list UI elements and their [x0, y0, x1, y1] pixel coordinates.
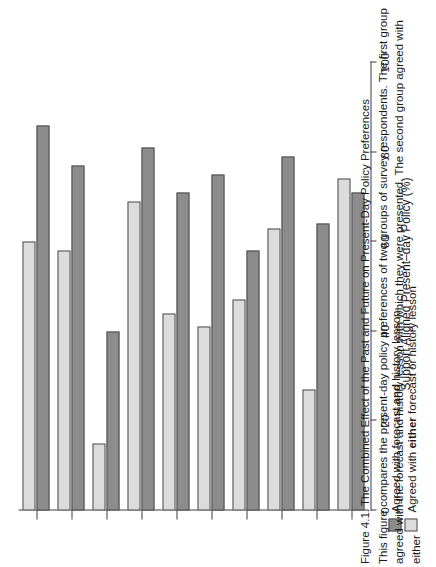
caption-title: Figure 4.1. The Combined Effect of the P… — [357, 4, 374, 564]
bar-and-series — [246, 250, 259, 510]
bar-either-series — [302, 389, 315, 510]
bar-group — [158, 62, 193, 510]
category-tick — [211, 510, 212, 519]
bar-either-series — [232, 299, 245, 510]
bar-and-series — [71, 165, 84, 510]
bar-either-series — [22, 241, 35, 510]
bar-group — [88, 62, 123, 510]
bar-and-series — [36, 125, 49, 510]
category-tick — [316, 510, 317, 519]
bar-group — [298, 62, 333, 510]
bar-and-series — [106, 331, 119, 510]
bar-either-series — [127, 201, 140, 510]
bar-group — [123, 62, 158, 510]
bar-group — [263, 62, 298, 510]
category-tick — [141, 510, 142, 519]
category-tick — [176, 510, 177, 519]
category-tick — [281, 510, 282, 519]
bar-either-series — [337, 178, 350, 510]
bar-group — [228, 62, 263, 510]
figure-caption: Figure 4.1. The Combined Effect of the P… — [355, 0, 433, 567]
bar-either-series — [197, 326, 210, 510]
bar-either-series — [57, 250, 70, 510]
bar-either-series — [267, 228, 280, 510]
figure-page: 020406080100 Imm. restrictionsMore immig… — [0, 0, 436, 567]
bar-and-series — [211, 174, 224, 510]
bar-either-series — [92, 443, 105, 510]
plot-area — [18, 62, 368, 510]
bar-and-series — [281, 156, 294, 510]
bar-group — [18, 62, 53, 510]
bar-group — [193, 62, 228, 510]
bar-and-series — [176, 192, 189, 510]
caption-body: This figure compares the present-day pol… — [375, 4, 425, 564]
category-tick — [351, 510, 352, 519]
bar-and-series — [316, 223, 329, 510]
category-tick — [246, 510, 247, 519]
category-tick — [106, 510, 107, 519]
bar-either-series — [162, 313, 175, 510]
figure-caption-text: Figure 4.1. The Combined Effect of the P… — [357, 4, 431, 564]
category-tick — [36, 510, 37, 519]
bar-group — [53, 62, 88, 510]
bar-and-series — [141, 147, 154, 510]
category-tick — [71, 510, 72, 519]
